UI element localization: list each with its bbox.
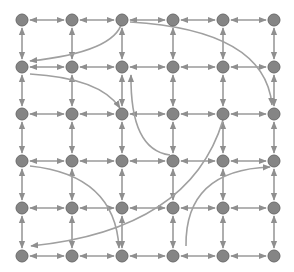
graph-node (217, 61, 229, 73)
graph-node (268, 250, 280, 262)
graph-node (66, 61, 78, 73)
graph-node (16, 61, 28, 73)
graph-node (66, 108, 78, 120)
graph-node (116, 108, 128, 120)
graph-node (268, 155, 280, 167)
graph-node (16, 250, 28, 262)
graph-node (268, 202, 280, 214)
graph-node (268, 108, 280, 120)
grid-graph-diagram (0, 0, 294, 272)
graph-node (268, 61, 280, 73)
graph-node (167, 61, 179, 73)
long-range-edge (31, 120, 223, 246)
long-range-edge (130, 22, 272, 105)
graph-node (116, 155, 128, 167)
graph-node (217, 202, 229, 214)
graph-node (66, 202, 78, 214)
graph-node (167, 108, 179, 120)
graph-node (66, 250, 78, 262)
grid-edges (22, 20, 274, 256)
graph-node (116, 250, 128, 262)
graph-node (167, 202, 179, 214)
graph-node (217, 155, 229, 167)
graph-node (116, 202, 128, 214)
graph-node (16, 155, 28, 167)
graph-node (116, 61, 128, 73)
graph-node (16, 202, 28, 214)
long-range-edges (30, 22, 272, 248)
graph-node (66, 14, 78, 26)
long-range-edge (30, 22, 122, 61)
graph-node (217, 108, 229, 120)
graph-node (167, 250, 179, 262)
graph-node (268, 14, 280, 26)
graph-node (66, 155, 78, 167)
graph-node (217, 250, 229, 262)
graph-node (116, 14, 128, 26)
graph-node (167, 14, 179, 26)
graph-node (16, 14, 28, 26)
graph-node (167, 155, 179, 167)
long-range-edge (30, 74, 120, 108)
graph-node (217, 14, 229, 26)
graph-node (16, 108, 28, 120)
long-range-edge (131, 75, 170, 155)
